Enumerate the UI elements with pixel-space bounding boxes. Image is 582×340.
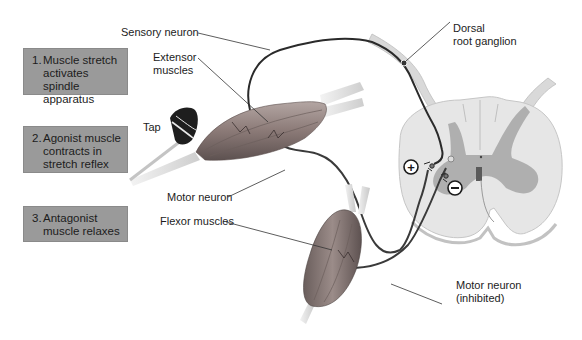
label-flexor-muscles: Flexor muscles xyxy=(160,215,234,228)
label-extensor-muscles: Extensor muscles xyxy=(153,51,196,76)
extensor-muscle xyxy=(130,82,364,186)
inhibitory-symbol xyxy=(448,181,462,195)
label-motor-neuron-inhibited: Motor neuron (inhibited) xyxy=(456,279,521,304)
step-2-text: Agonist muscle contracts in stretch refl… xyxy=(32,132,121,171)
step-3-number: 3. xyxy=(32,212,42,225)
step-3-box: 3. Antagonist muscle relaxes xyxy=(23,206,128,242)
label-sensory-neuron: Sensory neuron xyxy=(121,26,199,39)
step-3-text: Antagonist muscle relaxes xyxy=(32,212,121,238)
flexor-muscle xyxy=(300,184,370,324)
stretch-reflex-diagram: + 1. Muscle stretch activates spindle ap… xyxy=(0,0,582,340)
step-2-box: 2. Agonist muscle contracts in stretch r… xyxy=(23,126,128,173)
label-dorsal-root-ganglion: Dorsal root ganglion xyxy=(453,22,517,47)
step-2-number: 2. xyxy=(32,132,42,145)
excitatory-symbol: + xyxy=(404,160,418,175)
svg-text:+: + xyxy=(407,160,415,175)
label-tap: Tap xyxy=(143,121,161,134)
step-1-text: Muscle stretch activates spindle apparat… xyxy=(32,54,121,106)
step-1-number: 1. xyxy=(32,54,42,67)
label-motor-neuron: Motor neuron xyxy=(167,191,232,204)
spinal-cord-section xyxy=(399,97,562,245)
step-1-box: 1. Muscle stretch activates spindle appa… xyxy=(23,48,128,95)
